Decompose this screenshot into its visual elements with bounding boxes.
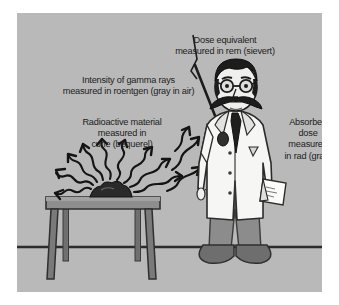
coat-button-1	[228, 151, 232, 155]
radiation-units-illustration: Dose equivalent measured in rem (sievert…	[0, 0, 339, 305]
table-leg-front-right	[145, 209, 156, 279]
coat-button-2	[228, 171, 232, 175]
caption-radioactive-material: Radioactive material measured in curie (…	[47, 117, 197, 151]
radiation-arrow-2	[56, 169, 93, 185]
scene-panel: Dose equivalent measured in rem (sievert…	[17, 13, 322, 292]
caption-dose-equivalent: Dose equivalent measured in rem (sievert…	[145, 35, 305, 57]
table-leg-back-left	[63, 209, 69, 261]
eye-right	[244, 84, 248, 88]
shoe-right	[236, 245, 271, 263]
radiation-arrow-7	[124, 147, 152, 183]
radiation-arrow-9	[134, 172, 182, 192]
hand-left	[218, 132, 229, 146]
table-leg-front-left	[47, 209, 58, 279]
eye-left	[225, 84, 229, 88]
table-leg-back-right	[135, 209, 141, 261]
caption-absorbed-dose: Absorbed dose measured in rad (gray)	[269, 117, 322, 162]
shoe-left	[199, 245, 234, 263]
caption-gamma-intensity: Intensity of gamma rays measured in roen…	[36, 75, 221, 97]
clipboard-papers	[260, 179, 286, 205]
hand-lower-left	[197, 188, 205, 200]
laboratory-table	[46, 197, 160, 279]
coat-button-3	[228, 191, 232, 195]
radioactive-sample	[90, 181, 132, 197]
